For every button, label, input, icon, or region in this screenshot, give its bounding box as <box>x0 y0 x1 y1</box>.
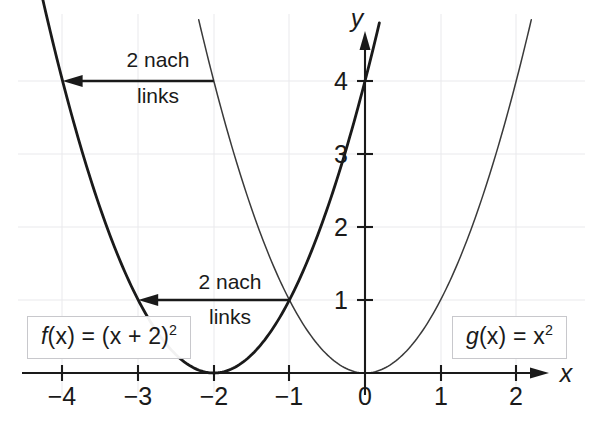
x-tick-label-1: 1 <box>434 382 448 410</box>
shift-annotation-top-line1: 2 nach <box>88 48 228 72</box>
x-tick-label-2: 2 <box>509 382 523 410</box>
formula-f-body: (x) = (x + 2) <box>48 323 169 349</box>
shift-annotation-top-line2: links <box>88 84 228 108</box>
formula-g-exponent: 2 <box>545 322 553 338</box>
x-tick-label-0: 0 <box>358 382 372 410</box>
y-axis-label: y <box>349 4 365 32</box>
shift-annotation-bottom: 2 nach <box>160 270 300 294</box>
formula-f-exponent: 2 <box>169 322 177 338</box>
y-axis <box>357 31 373 395</box>
shift-annotation-top-second: links <box>88 84 228 108</box>
shift-annotation-bottom-line1: 2 nach <box>160 270 300 294</box>
shift-annotation-top: 2 nach <box>88 48 228 72</box>
y-tick-label-1: 1 <box>334 286 348 314</box>
formula-g-body: (x) = x <box>479 323 545 349</box>
x-tick-label-minus1: −1 <box>275 382 304 410</box>
y-tick-label-2: 2 <box>334 213 348 241</box>
x-tick-label-minus2: −2 <box>200 382 229 410</box>
formula-box-g: g(x) = x2 <box>452 316 567 359</box>
formula-f-name: f <box>41 323 48 349</box>
x-tick-label-minus4: −4 <box>48 382 77 410</box>
graph-canvas: −4 −3 −2 −1 0 1 2 1 2 3 4 x y 2 nach lin… <box>0 0 597 433</box>
x-axis-label: x <box>559 359 574 387</box>
formula-g-name: g <box>466 323 479 349</box>
formula-box-f: f(x) = (x + 2)2 <box>27 316 191 359</box>
y-tick-label-3: 3 <box>334 140 348 168</box>
y-tick-label-4: 4 <box>334 67 348 95</box>
x-axis <box>22 365 549 381</box>
x-tick-label-minus3: −3 <box>124 382 153 410</box>
